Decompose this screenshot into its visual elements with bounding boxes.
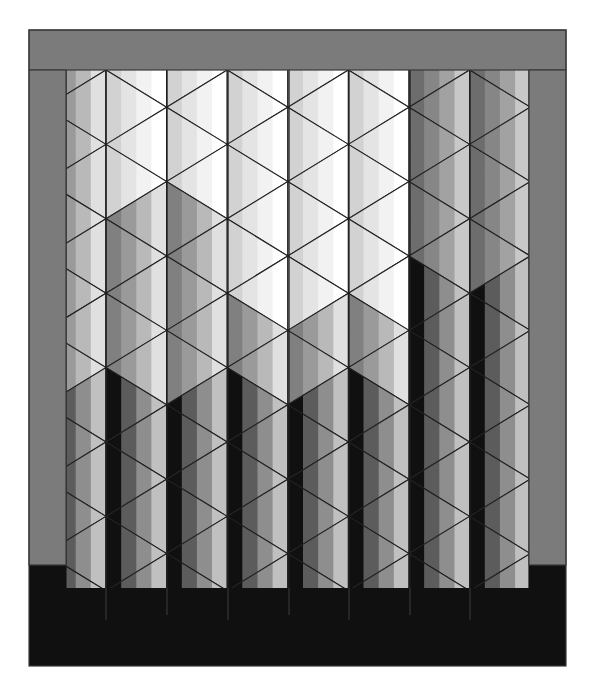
quilt-border-right: [529, 70, 566, 565]
quilt-illustration: [0, 0, 596, 695]
quilt-border-top: [29, 30, 566, 70]
quilt-pattern-field: [45, 0, 590, 665]
quilt-border-left: [29, 70, 66, 565]
